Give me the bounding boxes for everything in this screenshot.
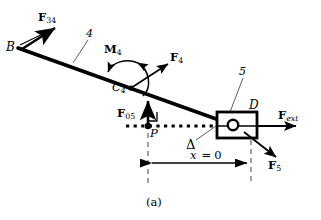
label-force-f4: F4	[170, 52, 183, 64]
label-point-c4: C4	[112, 82, 126, 94]
label-force-f4-sub: 4	[178, 56, 183, 65]
free-body-diagram-figure: F34 B 4 M4 F4 C4 F05 P Δ 5 D Fext F5 x=0…	[0, 0, 321, 220]
label-force-f05: F05	[117, 108, 135, 120]
label-force-fext-sub: ext	[286, 114, 298, 123]
force-f4-arrow	[131, 64, 168, 88]
label-force-f34-base: F	[38, 10, 46, 24]
label-force-f5: F5	[268, 160, 281, 172]
force-f5-arrow	[244, 132, 276, 157]
label-moment-m4-base: M	[104, 42, 117, 56]
leader-line-delta	[196, 126, 216, 140]
leader-line-link-4	[73, 40, 88, 63]
label-point-c4-sub: 4	[121, 86, 126, 95]
force-f34-arrow	[20, 28, 55, 49]
pin-joint-d	[228, 120, 238, 130]
point-c4-marker	[128, 85, 133, 90]
label-dimension-eq: =	[202, 148, 212, 162]
label-force-f4-base: F	[170, 50, 178, 64]
label-point-c4-base: C	[112, 80, 121, 94]
label-point-b: B	[6, 41, 15, 53]
label-link-5: 5	[239, 66, 246, 77]
label-force-f05-sub: 05	[125, 112, 135, 121]
label-link-4: 4	[86, 28, 93, 39]
label-force-f05-base: F	[117, 106, 125, 120]
label-force-fext: Fext	[278, 110, 298, 122]
label-dimension-var: x	[190, 148, 197, 162]
label-point-p: P	[150, 128, 158, 140]
label-moment-m4-sub: 4	[117, 48, 122, 57]
label-force-f34-sub: 34	[46, 16, 56, 25]
label-force-fext-base: F	[278, 108, 286, 122]
right-angle-symbol	[149, 112, 157, 121]
figure-caption: (a)	[146, 197, 162, 209]
label-point-d: D	[249, 99, 259, 111]
label-force-f5-base: F	[268, 158, 276, 172]
label-dimension-value: 0	[214, 148, 221, 162]
leader-line-link-5	[230, 78, 243, 112]
label-dimension-x: x=0	[190, 150, 221, 162]
label-force-f5-sub: 5	[276, 164, 281, 173]
label-moment-m4: M4	[104, 44, 122, 56]
diagram-canvas	[0, 0, 321, 220]
label-force-f34: F34	[38, 12, 56, 24]
